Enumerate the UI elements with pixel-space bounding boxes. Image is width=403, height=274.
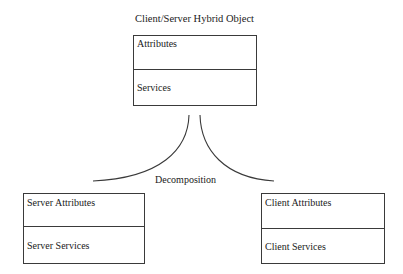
client-services-section: Client Services <box>262 229 384 263</box>
client-object-box: Client Attributes Client Services <box>261 193 385 264</box>
server-services-label: Server Services <box>27 240 89 252</box>
server-services-section: Server Services <box>24 227 144 263</box>
right-decomposition-arc <box>200 115 274 181</box>
client-services-label: Client Services <box>265 241 326 253</box>
server-attributes-label: Server Attributes <box>27 197 95 209</box>
decomposition-label: Decomposition <box>155 174 216 186</box>
left-decomposition-arc <box>93 115 189 181</box>
client-attributes-label: Client Attributes <box>265 197 331 209</box>
server-object-box: Server Attributes Server Services <box>23 193 145 264</box>
server-attributes-section: Server Attributes <box>24 194 144 227</box>
client-attributes-section: Client Attributes <box>262 194 384 228</box>
